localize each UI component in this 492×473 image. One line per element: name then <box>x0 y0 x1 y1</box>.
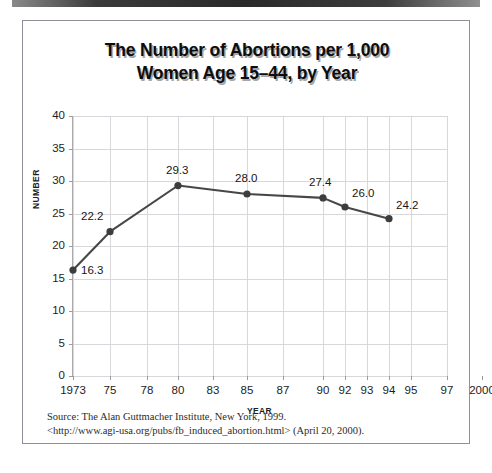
y-axis-tick-label: 0 <box>35 370 65 382</box>
data-point-marker <box>106 228 113 235</box>
data-point-label: 26.0 <box>352 187 374 199</box>
source-note: Source: The Alan Guttmacher Institute, N… <box>47 410 457 438</box>
y-axis-tick-label: 10 <box>35 305 65 317</box>
y-axis-tick-label: 5 <box>35 338 65 350</box>
y-axis-tick-label: 15 <box>35 273 65 285</box>
y-axis-tick-label: 25 <box>35 208 65 220</box>
page-title: The Number of Abortions per 1,000 Women … <box>23 39 471 85</box>
x-axis-tick-mark <box>367 376 368 380</box>
data-point-marker <box>385 215 392 222</box>
series-markers <box>69 182 392 274</box>
plot-area: 0510152025303540 19737578808385879092939… <box>72 116 448 377</box>
x-axis-tick-mark <box>323 376 324 380</box>
x-axis-tick-label: 87 <box>277 384 290 396</box>
data-point-marker <box>341 203 348 210</box>
x-axis-tick-mark <box>110 376 111 380</box>
gridline-horizontal <box>73 376 448 377</box>
y-axis-tick-label: 35 <box>35 143 65 155</box>
figure-frame: The Number of Abortions per 1,000 Women … <box>22 20 470 444</box>
x-axis-tick-mark <box>345 376 346 380</box>
x-axis-tick-mark <box>411 376 412 380</box>
data-point-label: 22.2 <box>81 210 103 222</box>
x-axis-tick-mark <box>73 376 74 380</box>
data-point-label: 27.4 <box>309 176 331 188</box>
x-axis-tick-mark <box>247 376 248 380</box>
x-axis-tick-label: 2000 <box>469 384 492 396</box>
x-axis-tick-mark <box>482 376 483 380</box>
x-axis-tick-label: 97 <box>441 384 454 396</box>
chart-title-line-2: Women Age 15–44, by Year <box>23 62 471 85</box>
x-axis-tick-label: 90 <box>317 384 330 396</box>
x-axis-tick-mark <box>389 376 390 380</box>
y-axis-tick-label: 40 <box>35 110 65 122</box>
data-point-marker <box>319 194 326 201</box>
y-axis-tick-label: 30 <box>35 175 65 187</box>
x-axis-tick-label: 94 <box>383 384 396 396</box>
decorative-top-bar <box>12 0 480 7</box>
x-axis-tick-label: 83 <box>207 384 220 396</box>
x-axis-tick-label: 93 <box>361 384 374 396</box>
series-polyline <box>73 186 389 271</box>
source-note-line-2: <http://www.agi-usa.org/pubs/fb_induced_… <box>47 424 457 438</box>
data-point-label: 24.2 <box>396 199 418 211</box>
data-point-marker <box>243 190 250 197</box>
x-axis-tick-mark <box>447 376 448 380</box>
data-point-marker <box>69 266 76 273</box>
data-point-label: 29.3 <box>166 164 188 176</box>
chart-title-line-1: The Number of Abortions per 1,000 <box>23 39 471 62</box>
data-point-label: 28.0 <box>235 172 257 184</box>
x-axis-tick-mark <box>178 376 179 380</box>
x-axis-tick-label: 92 <box>339 384 352 396</box>
x-axis-tick-label: 75 <box>104 384 117 396</box>
data-point-marker <box>174 182 181 189</box>
data-series-line <box>73 116 448 376</box>
x-axis-tick-label: 80 <box>172 384 185 396</box>
x-axis-tick-label: 78 <box>141 384 154 396</box>
x-axis-tick-label: 85 <box>241 384 254 396</box>
x-axis-tick-mark <box>213 376 214 380</box>
x-axis-tick-mark <box>283 376 284 380</box>
data-point-label: 16.3 <box>81 264 103 276</box>
y-axis-tick-label: 20 <box>35 240 65 252</box>
x-axis-tick-label: 95 <box>405 384 418 396</box>
x-axis-tick-label: 1973 <box>60 384 86 396</box>
x-axis-tick-mark <box>147 376 148 380</box>
source-note-line-1: Source: The Alan Guttmacher Institute, N… <box>47 410 457 424</box>
